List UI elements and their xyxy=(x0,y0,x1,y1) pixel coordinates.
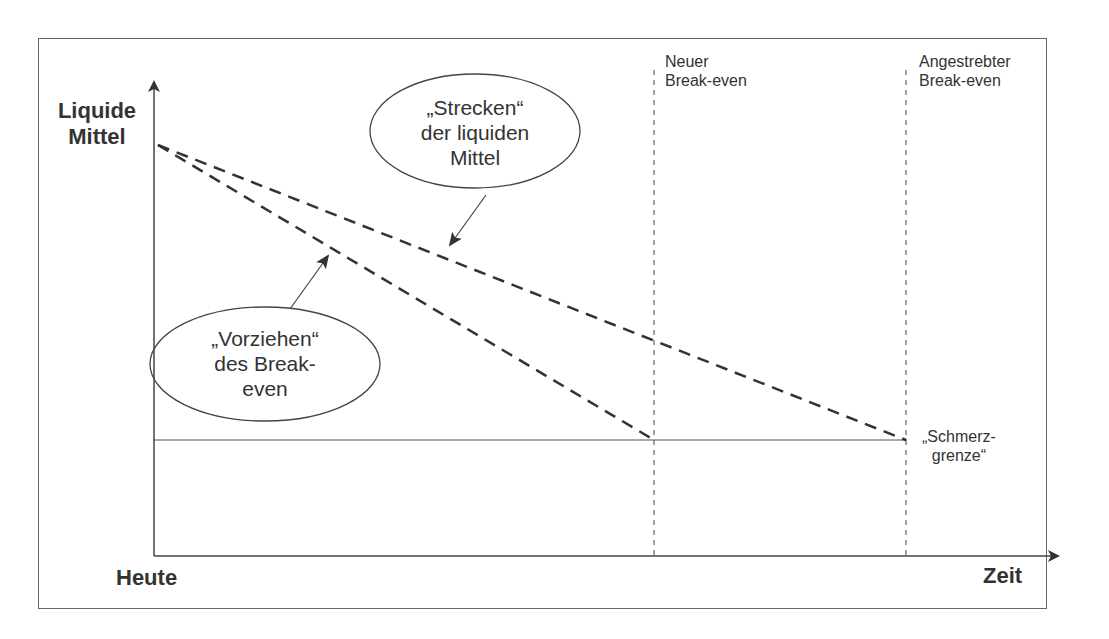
pullforward-callout-line2: des Break- xyxy=(150,351,380,376)
new-breakeven-label: Neuer Break-even xyxy=(665,52,747,90)
stretch-callout-line3: Mittel xyxy=(370,145,580,170)
target-breakeven-label: Angestrebter Break-even xyxy=(919,52,1011,90)
pullforward-callout-text: „Vorziehen“ des Break- even xyxy=(150,326,380,402)
stretch-callout-text: „Strecken“ der liquiden Mittel xyxy=(370,95,580,171)
new-breakeven-label-line2: Break-even xyxy=(665,71,747,90)
pullforward-callout-line1: „Vorziehen“ xyxy=(150,326,380,351)
target-breakeven-label-line1: Angestrebter xyxy=(919,52,1011,71)
stretch-callout-line2: der liquiden xyxy=(370,120,580,145)
pullforward-callout-line3: even xyxy=(150,376,380,401)
y-axis-label: Liquide Mittel xyxy=(48,98,146,151)
stretch-callout-arrow xyxy=(450,195,486,245)
y-axis-label-line1: Liquide xyxy=(48,98,146,124)
threshold-label-line1: „Schmerz- xyxy=(922,427,996,446)
y-axis-label-line2: Mittel xyxy=(48,124,146,150)
threshold-label-line2: grenze“ xyxy=(922,446,996,465)
threshold-label: „Schmerz- grenze“ xyxy=(922,427,996,465)
stretch-callout-line1: „Strecken“ xyxy=(370,95,580,120)
x-end-label: Zeit xyxy=(983,563,1022,589)
pullforward-callout-arrow xyxy=(290,256,328,309)
new-breakeven-label-line1: Neuer xyxy=(665,52,747,71)
x-start-label: Heute xyxy=(116,565,177,591)
target-breakeven-label-line2: Break-even xyxy=(919,71,1011,90)
